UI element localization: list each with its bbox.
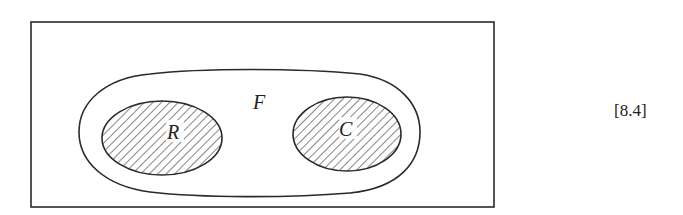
set-f-label: F xyxy=(252,91,266,113)
equation-number: [8.4] xyxy=(614,101,647,121)
universe-box xyxy=(31,22,494,207)
venn-figure: F R C [8.4] xyxy=(0,0,683,215)
set-r-label: R xyxy=(166,121,179,143)
set-r-ellipse xyxy=(102,101,222,175)
set-c-label: C xyxy=(339,118,353,140)
